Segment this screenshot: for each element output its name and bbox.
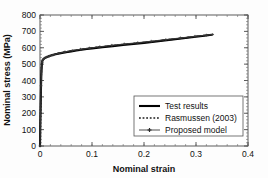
x-axis-title: Nominal strain (113, 164, 176, 174)
y-tick-label: 400 (22, 76, 36, 86)
chart-canvas: 00.10.20.30.4 0100200300400500600700800 … (0, 0, 268, 178)
y-tick-label: 300 (22, 92, 36, 102)
legend-label: Proposed model (165, 125, 227, 135)
x-tick-label: 0.3 (190, 149, 202, 159)
y-tick-label: 200 (22, 108, 36, 118)
y-tick-label: 100 (22, 125, 36, 135)
y-axis-tick-labels: 0100200300400500600700800 (22, 10, 36, 151)
stress-strain-chart: 00.10.20.30.4 0100200300400500600700800 … (0, 0, 268, 178)
figure-container: 00.10.20.30.4 0100200300400500600700800 … (0, 0, 268, 178)
x-tick-label: 0.2 (138, 149, 150, 159)
legend[interactable]: Test resultsRasmussen (2003)Proposed mod… (134, 96, 243, 136)
y-axis-title: Nominal stress (MPa) (2, 34, 12, 126)
y-tick-label: 600 (22, 43, 36, 53)
y-tick-label: 700 (22, 26, 36, 36)
x-tick-label: 0 (38, 149, 43, 159)
y-tick-label: 500 (22, 59, 36, 69)
x-tick-label: 0.4 (242, 149, 254, 159)
x-axis-tick-labels: 00.10.20.30.4 (38, 149, 255, 159)
legend-label: Test results (165, 101, 208, 111)
y-tick-label: 800 (22, 10, 36, 20)
legend-label: Rasmussen (2003) (165, 113, 237, 123)
y-tick-label: 0 (31, 141, 36, 151)
x-tick-label: 0.1 (86, 149, 98, 159)
